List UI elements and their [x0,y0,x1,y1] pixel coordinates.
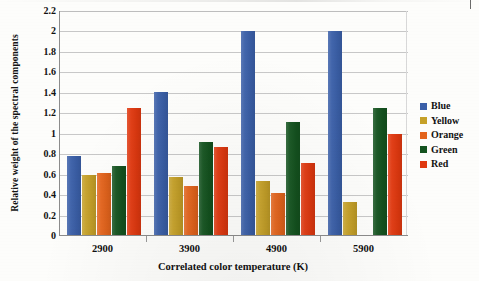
bar-green-4900 [286,122,300,236]
bar-shading [97,173,111,236]
y-tick-label: 0.6 [44,170,57,180]
x-tick-label: 4900 [266,243,287,254]
plot-area [59,11,407,236]
bar-shading [127,108,141,236]
bar-orange-3900 [184,186,198,236]
legend-swatch-orange [420,132,427,139]
y-tick-label: 1.6 [44,67,57,77]
bar-shading [328,31,342,236]
x-tick-mark [320,236,321,242]
bar-groups [60,11,408,236]
x-axis-title: Correlated color temperature (K) [59,261,407,272]
x-tick-mark [233,236,234,242]
y-tick-label: 0.2 [44,211,57,221]
legend-swatch-green [420,146,427,153]
bar-green-3900 [199,142,213,236]
bar-green-5900 [373,108,387,236]
bar-shading [301,163,315,236]
y-tick-label: 1 [51,129,56,139]
legend-label: Green [431,145,457,155]
bar-shading [214,147,228,236]
legend-swatch-blue [420,103,427,110]
bar-shading [184,186,198,236]
legend-item-green[interactable]: Green [420,145,463,155]
bar-shading [256,181,270,236]
bar-red-4900 [301,163,315,236]
bar-blue-2900 [67,156,81,236]
legend-label: Red [431,159,448,169]
bar-yellow-3900 [169,177,183,236]
bar-orange-4900 [271,193,285,236]
bar-shading [241,31,255,236]
bar-group-5900 [321,11,408,236]
bar-green-2900 [112,166,126,236]
x-tick-label: 2900 [92,243,113,254]
bar-shading [271,193,285,236]
bar-red-2900 [127,108,141,236]
bar-shading [373,108,387,236]
bar-yellow-2900 [82,175,96,236]
x-tick-label: 3900 [179,243,200,254]
legend-swatch-red [420,161,427,168]
bar-shading [388,134,402,236]
y-tick-label: 0 [51,231,56,241]
bar-group-3900 [147,11,234,236]
scan-artifact-tick [470,0,471,9]
chart-figure: Relative weight of the spectral componen… [0,0,479,281]
bar-orange-2900 [97,173,111,236]
bar-shading [343,202,357,236]
bar-blue-4900 [241,31,255,236]
legend-item-blue[interactable]: Blue [420,101,463,111]
legend-item-orange[interactable]: Orange [420,130,463,140]
bar-shading [82,175,96,236]
legend-item-yellow[interactable]: Yellow [420,116,463,126]
bar-red-5900 [388,134,402,236]
bar-blue-5900 [328,31,342,236]
bar-yellow-5900 [343,202,357,236]
bar-yellow-4900 [256,181,270,236]
legend: BlueYellowOrangeGreenRed [420,101,463,169]
bar-red-3900 [214,147,228,236]
x-axis-line [60,235,408,236]
y-tick-label: 2 [51,26,56,36]
legend-swatch-yellow [420,117,427,124]
legend-label: Blue [431,101,450,111]
scan-artifact-line [0,0,479,2]
x-axis-tick-labels: 2900390049005900 [59,243,407,259]
bar-shading [199,142,213,236]
y-tick-label: 1.8 [44,47,57,57]
bar-shading [67,156,81,236]
legend-label: Yellow [431,116,459,126]
bar-blue-3900 [154,92,168,236]
bar-group-2900 [60,11,147,236]
x-tick-mark [146,236,147,242]
y-axis-tick-labels: 2.221.81.61.41.210.80.60.40.20 [16,0,56,281]
bar-shading [286,122,300,236]
legend-label: Orange [431,130,463,140]
y-tick-label: 2.2 [44,6,57,16]
y-tick-label: 1.2 [44,108,57,118]
y-tick-label: 0.4 [44,190,57,200]
bar-shading [154,92,168,236]
y-tick-label: 0.8 [44,149,57,159]
bar-shading [169,177,183,236]
bar-group-4900 [234,11,321,236]
legend-item-red[interactable]: Red [420,159,463,169]
bar-shading [112,166,126,236]
y-tick-label: 1.4 [44,88,57,98]
x-tick-label: 5900 [353,243,374,254]
